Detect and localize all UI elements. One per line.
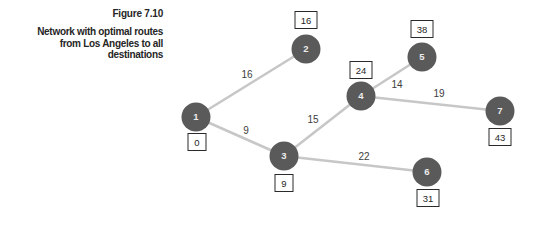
node-number-5: 5: [419, 51, 425, 62]
edge-weight-4-5: 14: [391, 79, 403, 90]
figure-page: 169152214191234567016924383143 Figure 7.…: [0, 0, 541, 226]
node-number-3: 3: [281, 150, 286, 161]
node-number-6: 6: [424, 166, 429, 177]
edge-4-7: [361, 96, 500, 111]
edge-3-6: [284, 156, 427, 172]
distance-value-3: 9: [281, 178, 286, 189]
edge-weight-4-7: 19: [433, 88, 445, 99]
edge-weight-1-3: 9: [243, 125, 249, 136]
distance-value-1: 0: [194, 137, 199, 148]
edge-weight-1-2: 16: [241, 69, 253, 80]
edge-weight-3-6: 22: [358, 151, 370, 162]
figure-label: Figure 7.10: [37, 8, 163, 19]
figure-caption-block: Figure 7.10 Network with optimal routes …: [37, 8, 163, 61]
distance-value-6: 31: [423, 193, 434, 204]
distance-value-5: 38: [417, 24, 428, 35]
edge-3-4: [284, 96, 361, 156]
distance-value-2: 16: [301, 15, 312, 26]
edge-1-2: [196, 49, 306, 117]
node-number-1: 1: [193, 111, 199, 122]
figure-caption-line-1: Network with optimal routes: [37, 26, 163, 38]
node-number-4: 4: [358, 90, 364, 101]
figure-caption-line-2: from Los Angeles to all: [37, 38, 163, 50]
figure-caption-line-3: destinations: [37, 49, 163, 61]
distance-value-4: 24: [356, 65, 367, 76]
edge-weight-3-4: 15: [307, 114, 319, 125]
distance-value-7: 43: [495, 132, 506, 143]
node-number-7: 7: [497, 105, 502, 116]
node-number-2: 2: [303, 43, 308, 54]
